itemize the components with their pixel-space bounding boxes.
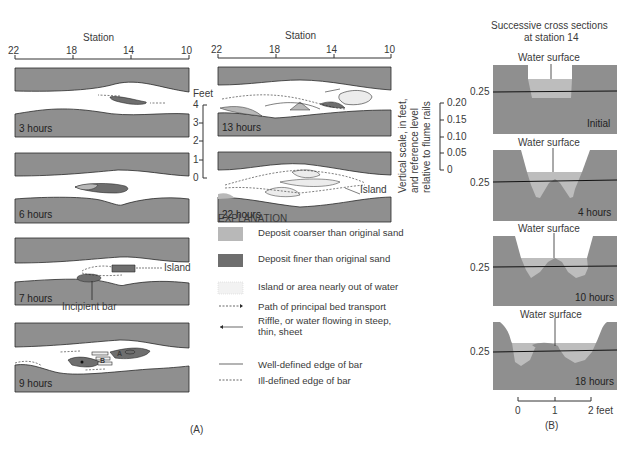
vscale-tick-015: 0.15	[447, 114, 466, 125]
level-label-initial: 0.25	[470, 86, 489, 97]
panel-a-caption: (A)	[190, 424, 203, 435]
feet-scale-bar	[199, 105, 207, 178]
station-tick-10-right: 10	[384, 44, 395, 55]
bar-label-a: A	[117, 350, 122, 357]
vscale-tick-005: 0.05	[447, 147, 466, 158]
level-label-18h: 0.25	[470, 346, 489, 357]
callout-island-22h: Island	[360, 184, 387, 195]
station-label-left: Station	[83, 32, 114, 43]
hscale-tick-2: 2 feet	[588, 405, 613, 416]
section-time-4h: 4 hours	[578, 207, 611, 218]
station-tick-14-right: 14	[326, 44, 337, 55]
time-label-7-hours: 7 hours	[19, 293, 52, 304]
feet-tick-1: 1	[193, 154, 199, 165]
station-axis-left	[15, 55, 189, 59]
station-tick-18-left: 18	[66, 45, 77, 56]
time-label-3-hours: 3 hours	[19, 123, 52, 134]
section-time-18h: 18 hours	[575, 376, 614, 387]
station-label-right: Station	[285, 30, 316, 41]
feet-tick-4: 4	[193, 99, 199, 110]
water-surface-label-10h: Water surface	[518, 223, 580, 234]
feet-tick-0: 0	[193, 172, 199, 183]
explanation-title: EXPLANATION	[218, 213, 287, 224]
vscale-tick-0: 0	[447, 164, 453, 175]
feet-tick-3: 3	[193, 117, 199, 128]
vscale-tick-020: 0.20	[447, 97, 466, 108]
time-label-6-hours: 6 hours	[19, 209, 52, 220]
hscale-tick-1: 1	[552, 405, 558, 416]
panel-b-caption: (B)	[545, 420, 558, 431]
feet-tick-2: 2	[193, 135, 199, 146]
time-label-13-hours: 13 hours	[222, 122, 261, 133]
callout-island-7h: Island	[164, 262, 191, 273]
hscale-tick-0: 0	[515, 405, 521, 416]
vertical-scale-bar	[440, 103, 444, 170]
bar-label-b: B	[100, 357, 105, 364]
station-tick-10-left: 10	[181, 45, 192, 56]
level-label-10h: 0.25	[470, 262, 489, 273]
station-tick-22-left: 22	[8, 45, 19, 56]
station-axis-right	[218, 54, 391, 58]
callout-incipient-bar: Incipient bar	[62, 301, 116, 312]
water-surface-label-18h: Water surface	[520, 309, 582, 320]
time-label-9-hours: 9 hours	[19, 378, 52, 389]
station-tick-14-left: 14	[123, 45, 134, 56]
horizontal-scale-bar	[518, 397, 591, 401]
station-tick-18-right: 18	[269, 44, 280, 55]
vertical-scale-label-line2: and reference level	[409, 99, 421, 194]
vertical-scale-label: Vertical scale, in feet, and reference l…	[397, 99, 433, 194]
vertical-scale-label-line3: relative to flume rails	[421, 99, 433, 194]
feet-scale-title: Feet	[193, 88, 213, 99]
panel-b-title-line1: Successive cross sections	[491, 20, 608, 31]
vertical-scale-label-line1: Vertical scale, in feet,	[397, 99, 409, 194]
water-surface-label-4h: Water surface	[518, 137, 580, 148]
station-tick-22-right: 22	[211, 44, 222, 55]
water-surface-label-initial: Water surface	[518, 52, 580, 63]
vscale-tick-010: 0.10	[447, 131, 466, 142]
level-label-4h: 0.25	[470, 177, 489, 188]
section-time-initial: Initial	[587, 118, 610, 129]
section-time-10h: 10 hours	[575, 292, 614, 303]
legend-swatches	[218, 227, 243, 380]
panel-b-title-line2: at station 14	[524, 32, 578, 43]
